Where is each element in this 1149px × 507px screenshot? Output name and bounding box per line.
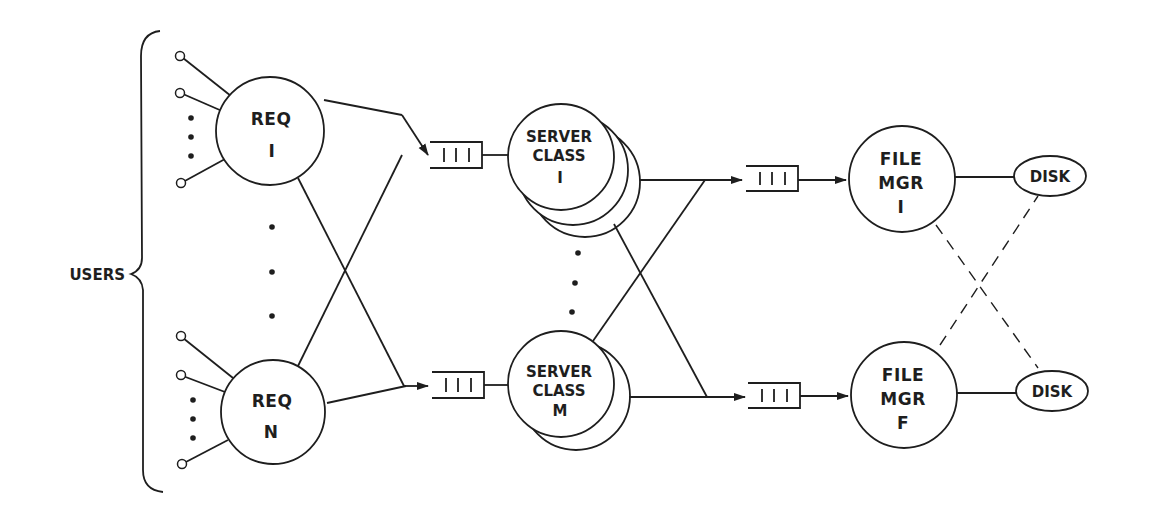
user-terminal-icon: [178, 460, 187, 469]
filemgr-disk-links: [955, 177, 1016, 393]
users-brace: [131, 31, 163, 492]
server-class-node-i: SERVER CLASS I: [508, 104, 640, 237]
users-label: USERS: [69, 266, 125, 284]
svg-text:I: I: [269, 141, 276, 161]
disk-node-bottom: DISK: [1016, 371, 1088, 411]
user-terminal-icon: [177, 371, 186, 380]
svg-text:DISK: DISK: [1032, 383, 1074, 401]
queue-server-m: [432, 372, 510, 398]
svg-text:CLASS: CLASS: [532, 147, 585, 165]
svg-text:REQ: REQ: [251, 109, 292, 129]
svg-text:F: F: [897, 413, 909, 433]
user-terminal-icon: [176, 52, 185, 61]
user-terminal-icon: [177, 332, 186, 341]
file-manager-node-i: FILE MGR I: [849, 126, 955, 232]
svg-text:SERVER: SERVER: [526, 363, 592, 381]
svg-text:N: N: [264, 422, 279, 442]
svg-text:DISK: DISK: [1030, 168, 1072, 186]
filemgr-disk-dashed-links: [936, 196, 1038, 368]
queue-filemgr-i: [746, 166, 846, 191]
svg-text:FILE: FILE: [882, 365, 924, 385]
server-ellipsis: [569, 250, 581, 315]
queue-server-i: [430, 142, 510, 168]
requestor-node-n: REQ N: [221, 360, 325, 464]
server-class-node-m: SERVER CLASS M: [508, 331, 630, 450]
user-terminal-icon: [176, 89, 185, 98]
requestor-ellipsis: [269, 224, 275, 319]
disk-node-top: DISK: [1014, 156, 1086, 196]
svg-text:I: I: [898, 197, 905, 217]
svg-text:REQ: REQ: [252, 391, 293, 411]
requestor-node-i: REQ I: [216, 77, 324, 185]
queue-filemgr-f: [748, 383, 848, 408]
svg-text:M: M: [553, 402, 568, 420]
user-terminal-icon: [177, 179, 186, 188]
transaction-processing-diagram: USERS: [0, 0, 1149, 507]
svg-text:CLASS: CLASS: [532, 382, 585, 400]
svg-text:FILE: FILE: [880, 149, 922, 169]
svg-text:MGR: MGR: [880, 389, 925, 409]
svg-text:I: I: [557, 169, 563, 187]
users-group: USERS: [69, 31, 163, 492]
svg-text:MGR: MGR: [878, 173, 923, 193]
svg-text:SERVER: SERVER: [526, 128, 592, 146]
file-manager-node-f: FILE MGR F: [851, 342, 957, 448]
